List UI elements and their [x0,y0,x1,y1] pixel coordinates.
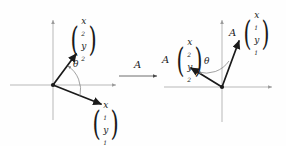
figure-canvas: ( x2 y2 ) θ ( x1 y1 ) A A ( x2 y2 [0,0,286,146]
right-vector-label-Ax1y1: A ( x1 y1 ) [229,11,272,56]
right-colvec-x2y2: ( x2 y2 ) [174,38,205,83]
right-origin-point [220,85,224,89]
right-vector-label-Ax2y2: A ( x2 y2 ) [162,38,205,83]
open-paren: ( [93,106,101,140]
left-theta-label: θ [73,60,78,69]
close-paren: ) [195,44,203,77]
left-colvec-x1y1: ( x1 y1 ) [90,101,122,146]
right-theta-label: θ [204,57,209,66]
close-paren: ) [262,17,270,50]
colvec-stack: x2 y2 [81,17,86,62]
open-paren: ( [71,22,79,56]
close-paren: ) [89,22,97,56]
right-colvec-x1y1: ( x1 y1 ) [241,11,272,56]
left-y1-label: y1 [103,126,108,146]
open-paren: ( [177,44,185,77]
colvec-stack: x1 y1 [103,101,108,146]
right-y2-label: y2 [187,63,192,83]
left-x2-label: x2 [81,17,86,37]
transform-label-A: A [134,60,141,70]
colvec-stack: x1 y1 [254,11,259,56]
left-origin-point [51,83,55,87]
close-paren: ) [111,106,119,140]
left-vector-label-x2y2: ( x2 y2 ) [68,17,100,62]
right-x2-label: x2 [187,38,192,58]
right-x1-label: x1 [254,11,259,31]
left-x1-label: x1 [103,101,108,121]
left-vector-label-x1y1: ( x1 y1 ) [90,101,122,146]
open-paren: ( [244,17,252,50]
left-colvec-x2y2: ( x2 y2 ) [68,17,100,62]
colvec-stack: x2 y2 [187,38,192,83]
left-y2-label: y2 [81,42,86,62]
right-operator-A-x2y2: A [162,55,169,65]
right-operator-A-x1y1: A [229,28,236,38]
right-y1-label: y1 [254,36,259,56]
